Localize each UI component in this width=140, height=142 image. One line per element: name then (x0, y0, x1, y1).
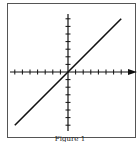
line-chart (0, 0, 140, 142)
figure-caption: Figure 1 (0, 136, 140, 142)
